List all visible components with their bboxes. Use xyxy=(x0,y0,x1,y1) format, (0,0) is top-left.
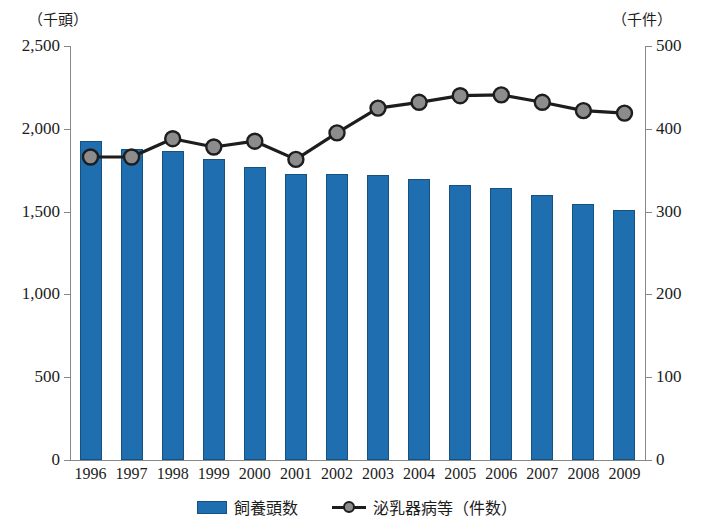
bar-2008 xyxy=(572,204,594,460)
bar-2003 xyxy=(367,175,389,460)
bar-2006 xyxy=(490,188,512,460)
right-axis-tick-label: 500 xyxy=(656,37,713,54)
right-axis-tick-label: 200 xyxy=(656,285,713,302)
bar-2000 xyxy=(244,167,266,460)
left-axis-tick-label: 2,000 xyxy=(6,120,60,137)
line-marker-2002 xyxy=(330,125,345,140)
line-marker-2006 xyxy=(494,87,509,102)
bar-1998 xyxy=(162,151,184,460)
left-axis-tick-label: 1,000 xyxy=(6,285,60,302)
right-axis-tick-label: 100 xyxy=(656,368,713,385)
line-marker-2003 xyxy=(371,101,386,116)
line-path xyxy=(91,95,625,159)
legend-item-line[interactable]: 泌乳器病等（件数） xyxy=(332,495,517,519)
bar-1997 xyxy=(121,149,143,460)
right-axis-unit-label: （千件） xyxy=(612,8,672,29)
bar-1999 xyxy=(203,159,225,460)
right-axis-tick xyxy=(646,46,652,47)
line-series-layer xyxy=(0,0,713,531)
legend-bar-swatch-icon xyxy=(197,501,227,514)
line-marker-2001 xyxy=(288,152,303,167)
bar-2009 xyxy=(613,210,635,460)
left-axis-tick-label: 500 xyxy=(6,368,60,385)
left-axis-tick-label: 2,500 xyxy=(6,37,60,54)
right-axis-tick-label: 300 xyxy=(656,203,713,220)
line-marker-1998 xyxy=(165,131,180,146)
x-axis-tick-label-2009: 2009 xyxy=(599,466,649,482)
legend-line-label: 泌乳器病等（件数） xyxy=(373,495,517,519)
line-marker-1999 xyxy=(206,140,221,155)
legend-line-swatch-icon xyxy=(332,500,366,514)
right-axis-tick xyxy=(646,212,652,213)
left-axis-tick xyxy=(64,377,70,378)
bar-2007 xyxy=(531,195,553,460)
right-axis-tick xyxy=(646,294,652,295)
left-axis-tick-label: 0 xyxy=(6,451,60,468)
left-axis-tick xyxy=(64,460,70,461)
chart-legend: 飼養頭数 泌乳器病等（件数） xyxy=(0,495,713,519)
right-axis-tick xyxy=(646,377,652,378)
right-axis-tick xyxy=(646,460,652,461)
legend-bar-label: 飼養頭数 xyxy=(234,495,298,519)
bar-1996 xyxy=(80,141,102,460)
legend-item-bar[interactable]: 飼養頭数 xyxy=(197,495,298,519)
left-axis-unit-label: （千頭） xyxy=(28,8,88,29)
bar-2002 xyxy=(326,174,348,460)
left-axis-tick xyxy=(64,294,70,295)
left-axis-tick xyxy=(64,46,70,47)
right-axis-tick-label: 400 xyxy=(656,120,713,137)
line-marker-2005 xyxy=(453,88,468,103)
x-axis-line xyxy=(70,460,646,461)
right-axis-tick-label: 0 xyxy=(656,451,713,468)
left-axis-tick xyxy=(64,129,70,130)
left-axis-tick xyxy=(64,212,70,213)
bar-2001 xyxy=(285,174,307,460)
line-marker-2000 xyxy=(247,134,262,149)
line-marker-2009 xyxy=(617,106,632,121)
right-axis-line xyxy=(645,46,646,461)
left-axis-tick-label: 1,500 xyxy=(6,203,60,220)
left-axis-line xyxy=(70,46,71,461)
chart-container: （千頭） （千件） 05001,0001,5002,0002,500 01002… xyxy=(0,0,713,531)
bar-2005 xyxy=(449,185,471,460)
bar-2004 xyxy=(408,179,430,460)
line-marker-2007 xyxy=(535,95,550,110)
line-marker-2008 xyxy=(576,103,591,118)
right-axis-tick xyxy=(646,129,652,130)
line-marker-2004 xyxy=(412,95,427,110)
